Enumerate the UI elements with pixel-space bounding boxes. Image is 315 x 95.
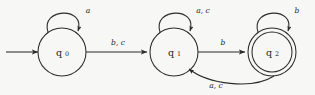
state-q2-subscript: 2 [275, 50, 279, 58]
self-loop-q2-label: b [295, 6, 300, 15]
transition-q2-q1-label: a, c [209, 81, 223, 90]
automaton-diagram: q 0 a b, c q 1 a, c b a, c q 2 b [0, 0, 315, 95]
state-q1-subscript: 1 [177, 50, 181, 58]
state-q1-label: q [168, 47, 174, 58]
transition-q0-q1-label: b, c [111, 38, 126, 47]
state-q0-subscript: 0 [65, 50, 69, 58]
self-loop-q0[interactable] [47, 13, 79, 32]
self-loop-q2[interactable] [257, 13, 289, 32]
transition-q1-q2-label: b [221, 38, 226, 47]
self-loop-q1-label: a, c [196, 6, 210, 15]
state-q2-label: q [266, 47, 272, 58]
automaton-canvas: q 0 a b, c q 1 a, c b a, c q 2 b [0, 0, 315, 95]
transition-q2-q1[interactable] [189, 69, 274, 84]
self-loop-q1[interactable] [159, 13, 191, 32]
self-loop-q0-label: a [86, 6, 91, 15]
state-q0-label: q [56, 47, 62, 58]
